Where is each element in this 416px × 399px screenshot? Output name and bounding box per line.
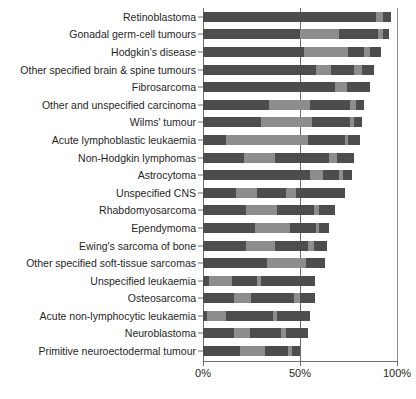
bar-segment <box>240 346 265 356</box>
bar-segment <box>316 65 332 75</box>
stacked-bar <box>203 328 308 338</box>
x-axis: 0%50%100% <box>0 361 416 391</box>
bar-segment <box>354 117 362 127</box>
bar-segment <box>286 188 296 198</box>
bar-segment <box>209 276 232 286</box>
x-axis-tick <box>397 361 398 366</box>
bar-segment <box>203 328 234 338</box>
bar-segment <box>251 293 294 303</box>
bar-segment <box>331 65 354 75</box>
bar-segment <box>296 188 344 198</box>
bar-segment <box>310 170 324 180</box>
category-label: Acute non-lymphocytic leukaemia <box>40 310 196 322</box>
bar-segment <box>257 188 286 198</box>
bar-segment <box>203 82 335 92</box>
bar-segment <box>269 100 310 110</box>
bar-row: Other and unspecified carcinoma <box>0 96 416 114</box>
bar-segment <box>308 135 345 145</box>
stacked-bar <box>203 346 300 356</box>
survival-bar-chart: RetinoblastomaGonadal germ-cell tumoursH… <box>0 0 416 399</box>
bar-row: Unspecified leukaemia <box>0 272 416 290</box>
bar-segment <box>275 153 329 163</box>
x-axis-tick-label: 0% <box>195 367 211 379</box>
bar-segment <box>319 205 335 215</box>
bar-row: Non-Hodgkin lymphomas <box>0 149 416 167</box>
bar-segment <box>203 346 240 356</box>
bar-segment <box>362 65 374 75</box>
bar-segment <box>347 82 370 92</box>
bar-segment <box>261 276 315 286</box>
bar-segment <box>277 205 314 215</box>
bar-segment <box>203 293 234 303</box>
bar-segment <box>203 223 255 233</box>
bar-row: Gonadal germ-cell tumours <box>0 26 416 44</box>
stacked-bar <box>203 117 362 127</box>
bar-row: Astrocytoma <box>0 166 416 184</box>
category-label: Unspecified CNS <box>116 187 196 199</box>
bar-segment <box>348 47 364 57</box>
x-axis-tick <box>300 361 301 366</box>
stacked-bar <box>203 188 345 198</box>
bar-row: Other specified brain & spine tumours <box>0 61 416 79</box>
bar-row: Acute lymphoblastic leukaemia <box>0 131 416 149</box>
bar-row: Other specified soft-tissue sarcomas <box>0 254 416 272</box>
bar-segment <box>250 328 281 338</box>
category-label: Primitive neuroectodermal tumour <box>38 345 196 357</box>
stacked-bar <box>203 205 335 215</box>
stacked-bar <box>203 47 381 57</box>
bar-segment <box>337 153 354 163</box>
bar-segment <box>292 346 300 356</box>
stacked-bar <box>203 276 316 286</box>
bar-row: Hodgkin's disease <box>0 43 416 61</box>
stacked-bar <box>203 100 364 110</box>
bar-segment <box>348 135 360 145</box>
bar-segment <box>207 311 226 321</box>
stacked-bar <box>203 170 352 180</box>
bar-segment <box>255 223 290 233</box>
bar-segment <box>246 241 275 251</box>
category-label: Gonadal germ-cell tumours <box>69 28 196 40</box>
category-label: Hodgkin's disease <box>111 46 196 58</box>
category-label: Astrocytoma <box>138 169 196 181</box>
bar-segment <box>203 117 261 127</box>
bar-segment <box>203 100 269 110</box>
x-axis-tick-label: 100% <box>383 367 411 379</box>
bar-segment <box>306 258 325 268</box>
bar-row: Fibrosarcoma <box>0 78 416 96</box>
bar-segment <box>232 276 257 286</box>
bar-segment <box>319 223 329 233</box>
bar-row: Retinoblastoma <box>0 8 416 26</box>
bar-row: Rhabdomyosarcoma <box>0 202 416 220</box>
bar-segment <box>203 135 226 145</box>
stacked-bar <box>203 223 329 233</box>
category-label: Ependymoma <box>131 222 196 234</box>
stacked-bar <box>203 258 325 268</box>
category-label: Other specified soft-tissue sarcomas <box>26 257 196 269</box>
bar-row: Unspecified CNS <box>0 184 416 202</box>
bar-rows: RetinoblastomaGonadal germ-cell tumoursH… <box>0 8 416 360</box>
stacked-bar <box>203 293 316 303</box>
bar-segment <box>329 153 337 163</box>
bar-segment <box>203 258 267 268</box>
bar-segment <box>203 153 244 163</box>
category-label: Fibrosarcoma <box>132 81 196 93</box>
bar-segment <box>236 188 257 198</box>
category-label: Non-Hodgkin lymphomas <box>78 152 196 164</box>
bar-segment <box>246 205 277 215</box>
category-label: Wilms' tumour <box>130 116 196 128</box>
bar-row: Wilms' tumour <box>0 114 416 132</box>
bar-segment <box>383 12 391 22</box>
stacked-bar <box>203 82 370 92</box>
bar-segment <box>335 82 347 92</box>
bar-segment <box>244 153 275 163</box>
bar-segment <box>275 241 308 251</box>
bar-segment <box>226 135 307 145</box>
bar-segment <box>304 47 349 57</box>
bar-segment <box>203 65 316 75</box>
bar-segment <box>203 170 310 180</box>
bar-row: Primitive neuroectodermal tumour <box>0 342 416 360</box>
bar-segment <box>323 170 339 180</box>
bar-segment <box>203 205 246 215</box>
bar-segment <box>226 311 273 321</box>
category-label: Rhabdomyosarcoma <box>99 204 196 216</box>
